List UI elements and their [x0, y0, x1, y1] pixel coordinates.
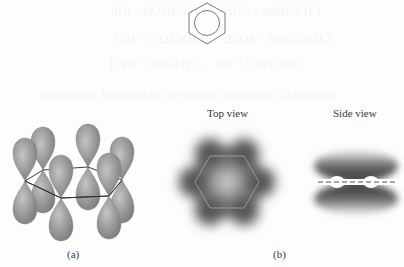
panel-b-side-view-cloud — [312, 150, 400, 215]
side-view-label: Side view — [333, 107, 377, 119]
caption-b: (b) — [273, 248, 286, 260]
panel-b-top-view-cloud — [172, 132, 282, 232]
benzene-ring-symbol — [189, 3, 225, 44]
top-view-label: Top view — [207, 107, 248, 119]
panel-a-p-orbitals — [13, 124, 134, 241]
caption-a: (a) — [67, 248, 79, 260]
benzene-aromatic-circle — [195, 11, 220, 36]
benzene-orbital-figure — [0, 0, 404, 267]
